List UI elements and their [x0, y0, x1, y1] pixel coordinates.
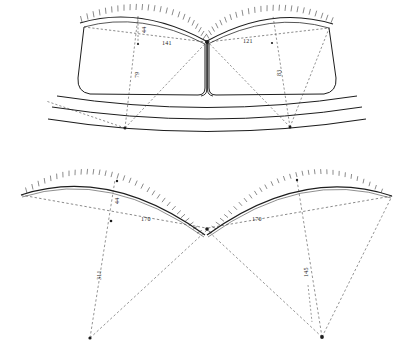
arc-lower-right-inner — [208, 189, 391, 237]
arc-lower-left-inner — [22, 189, 204, 237]
course-line-2 — [52, 107, 362, 119]
technical-drawing-canvas — [0, 0, 419, 359]
intrados-arc-right — [208, 22, 329, 44]
radius-lower-left-to-crown — [90, 230, 207, 338]
lower-figure — [21, 169, 392, 340]
drawing-sheet: 44 141 121 79 83 44 170 170 311 145 — [0, 0, 419, 359]
vault-body-left — [78, 27, 205, 95]
tick-point-right-upper — [271, 42, 273, 44]
label-upper-drop-left: 79 — [134, 71, 140, 78]
radius-lower-right-to-crown — [207, 230, 322, 337]
apex-point-lower-left — [116, 180, 118, 182]
crown-point-lower — [205, 227, 209, 231]
radius-right-to-crown — [208, 42, 290, 127]
centre-point-lower-left — [88, 336, 91, 339]
hatching-lower-right — [208, 169, 383, 233]
central-joint-right — [208, 42, 213, 96]
radius-left-to-crown — [125, 42, 207, 128]
chord-lower-right — [208, 196, 392, 228]
centre-point-left-upper — [124, 127, 127, 130]
hatching-upper-right — [206, 5, 333, 39]
label-upper-radius-left: 141 — [162, 40, 172, 46]
central-joint-left — [201, 42, 207, 96]
upper-figure — [46, 4, 366, 132]
arc-lower-left — [21, 186, 205, 235]
label-lower-rise-left: 44 — [114, 197, 120, 204]
label-lower-radius-right: 170 — [252, 216, 262, 222]
label-lower-drop-left: 311 — [96, 270, 102, 280]
centre-point-lower-right — [320, 335, 324, 339]
radius-lower-right-to-apex — [297, 180, 322, 337]
crown-point-upper — [205, 40, 209, 44]
apex-point-lower-right — [296, 179, 298, 181]
label-upper-rise-left: 44 — [141, 26, 147, 33]
label-upper-radius-right: 121 — [243, 38, 253, 44]
course-line-3 — [48, 119, 366, 132]
label-upper-drop-right: 83 — [276, 69, 282, 76]
chord-right-upper — [208, 28, 329, 42]
tick-point-left-upper — [137, 43, 139, 45]
label-lower-radius-left: 170 — [141, 216, 151, 222]
tick-point-lower-left — [110, 220, 113, 223]
radius-lower-right-to-springer — [322, 196, 392, 337]
course-line-1 — [57, 96, 357, 108]
hatching-upper-left — [81, 4, 207, 39]
centre-point-right-upper — [289, 126, 292, 129]
vault-body-right — [209, 28, 336, 95]
label-lower-drop-right: 145 — [303, 267, 309, 277]
radius-lower-left-to-apex — [90, 180, 115, 338]
drop-tick-lower-right — [308, 285, 312, 322]
